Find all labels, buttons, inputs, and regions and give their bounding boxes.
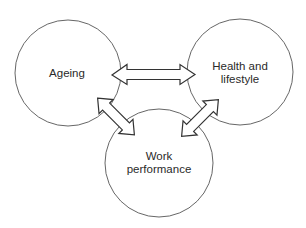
health-lifestyle-label-line1: Health and bbox=[212, 60, 268, 72]
double-arrow-ageing-health-icon bbox=[112, 65, 195, 85]
work-performance-label-line2: performance bbox=[127, 163, 192, 175]
ageing-label: Ageing bbox=[49, 67, 85, 79]
health-lifestyle-label-line2: lifestyle bbox=[221, 73, 259, 85]
work-performance-label-line1: Work bbox=[146, 150, 173, 162]
diagram-canvas: Ageing Health and lifestyle Work perform… bbox=[0, 0, 306, 228]
